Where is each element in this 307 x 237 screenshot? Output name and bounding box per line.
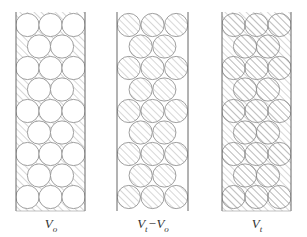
particle-circle	[165, 56, 188, 79]
particle-circle	[256, 35, 279, 58]
particle-circle	[245, 185, 268, 208]
particle-circle	[233, 164, 256, 187]
particle-circle	[39, 13, 62, 36]
particle-circle	[27, 164, 50, 187]
particle-circle	[233, 78, 256, 101]
particle-circle	[222, 185, 245, 208]
particle-circle	[16, 13, 39, 36]
particle-circle	[39, 99, 62, 122]
particle-circle	[165, 99, 188, 122]
particle-circle	[117, 99, 140, 122]
particle-circle	[256, 164, 279, 187]
particle-circle	[39, 185, 62, 208]
particle-circle	[268, 56, 291, 79]
particle-circle	[165, 13, 188, 36]
particle-circle	[245, 13, 268, 36]
particle-circle	[268, 13, 291, 36]
particle-circle	[39, 142, 62, 165]
particle-circle	[256, 121, 279, 144]
particle-circle	[62, 99, 85, 122]
particle-circle	[62, 142, 85, 165]
column-vt	[222, 12, 291, 211]
particle-circle	[141, 142, 164, 165]
particle-circle	[50, 121, 73, 144]
particle-circle	[129, 164, 152, 187]
particle-circle	[233, 35, 256, 58]
particle-circle	[117, 13, 140, 36]
particle-circle	[268, 142, 291, 165]
particle-circle	[27, 121, 50, 144]
particle-circle	[233, 121, 256, 144]
label-vo: Vo	[6, 216, 96, 237]
particle-circle	[245, 56, 268, 79]
particle-circle	[165, 142, 188, 165]
particle-circle	[117, 142, 140, 165]
particle-circle	[141, 99, 164, 122]
particle-circle	[50, 164, 73, 187]
particle-circle	[222, 142, 245, 165]
particle-circle	[16, 56, 39, 79]
packed-bed-diagram	[0, 0, 307, 237]
particle-circle	[165, 185, 188, 208]
particle-circle	[27, 78, 50, 101]
particle-circle	[39, 56, 62, 79]
label-vt: Vt	[212, 216, 302, 237]
column-vo	[16, 12, 85, 211]
particle-circle	[141, 185, 164, 208]
particle-circle	[153, 164, 176, 187]
particle-circle	[222, 56, 245, 79]
particle-circle	[153, 35, 176, 58]
particle-circle	[50, 78, 73, 101]
particle-circle	[117, 56, 140, 79]
particle-circle	[268, 99, 291, 122]
particle-circle	[62, 185, 85, 208]
particle-circle	[129, 121, 152, 144]
label-vt-minus-vo: Vt−Vo	[108, 216, 198, 237]
particle-circle	[153, 121, 176, 144]
particle-circle	[50, 35, 73, 58]
particle-circle	[16, 142, 39, 165]
particle-circle	[62, 13, 85, 36]
particle-circle	[222, 99, 245, 122]
particle-circle	[16, 99, 39, 122]
particle-circle	[141, 56, 164, 79]
particle-circle	[222, 13, 245, 36]
particle-circle	[141, 13, 164, 36]
particle-circle	[153, 78, 176, 101]
particle-circle	[268, 185, 291, 208]
particle-circle	[245, 142, 268, 165]
particle-circle	[62, 56, 85, 79]
particle-circle	[16, 185, 39, 208]
particle-circle	[245, 99, 268, 122]
particle-circle	[27, 35, 50, 58]
particle-circle	[129, 78, 152, 101]
particle-circle	[129, 35, 152, 58]
column-vt-vo	[117, 12, 188, 211]
particle-circle	[117, 185, 140, 208]
particle-circle	[256, 78, 279, 101]
